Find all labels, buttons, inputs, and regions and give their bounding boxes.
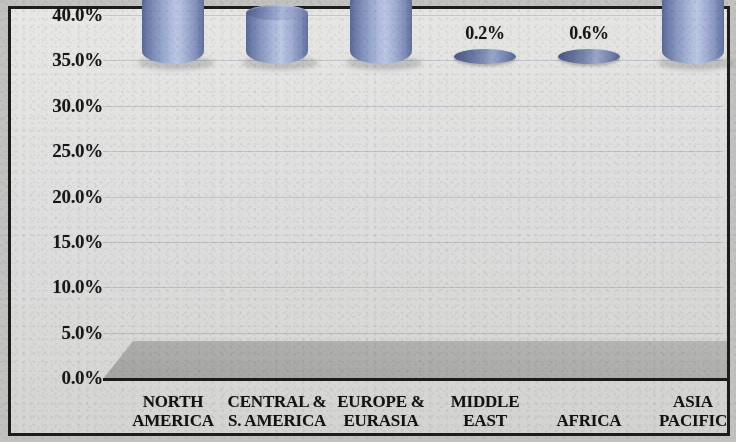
category-label-line: CENTRAL & — [221, 392, 333, 412]
y-axis-tick-label: 10.0% — [17, 276, 103, 298]
x-axis-category-labels: NORTHAMERICACENTRAL &S. AMERICAEUROPE &E… — [103, 381, 727, 433]
y-axis-tick-label: 20.0% — [17, 186, 103, 208]
bar-value-label: 0.2% — [465, 23, 504, 44]
category-label-6: ASIAPACIFIC — [637, 392, 736, 431]
category-label-line: AMERICA — [117, 411, 229, 431]
y-axis-tick-label: 5.0% — [17, 322, 103, 344]
category-label-line: AFRICA — [533, 411, 645, 431]
category-label-4: MIDDLEEAST — [429, 392, 541, 431]
category-label-2: CENTRAL &S. AMERICA — [221, 392, 333, 431]
bar-disc — [558, 49, 620, 64]
category-label-line: MIDDLE — [429, 392, 541, 412]
y-axis: 40.0%35.0%30.0%25.0%20.0%15.0%10.0%5.0%0… — [17, 9, 103, 378]
bar-cylinder-body — [142, 0, 204, 64]
category-label-line: EURASIA — [325, 411, 437, 431]
category-label-1: NORTHAMERICA — [117, 392, 229, 431]
y-axis-tick-label: 35.0% — [17, 49, 103, 71]
bar-1[interactable]: 23.4% — [121, 15, 225, 379]
bar-3[interactable]: 41.3% — [329, 15, 433, 379]
bar-cylinder — [662, 0, 724, 64]
bar-cylinder — [142, 0, 204, 64]
y-axis-tick-label: 30.0% — [17, 95, 103, 117]
bars-area: 23.4%6.5%41.3%0.2%0.6%28.0% — [103, 15, 727, 379]
bar-2[interactable]: 6.5% — [225, 15, 329, 379]
category-label-line: NORTH — [117, 392, 229, 412]
bar-6[interactable]: 28.0% — [641, 15, 736, 379]
category-label-line: S. AMERICA — [221, 411, 333, 431]
bar-cylinder-body — [662, 0, 724, 64]
axis-baseline — [103, 378, 727, 381]
category-label-line: EAST — [429, 411, 541, 431]
chart-root: 40.0%35.0%30.0%25.0%20.0%15.0%10.0%5.0%0… — [0, 0, 736, 442]
bar-4[interactable]: 0.2% — [433, 15, 537, 379]
category-label-3: EUROPE &EURASIA — [325, 392, 437, 431]
y-axis-tick-label: 0.0% — [17, 367, 103, 389]
bar-cylinder — [350, 0, 412, 64]
chart-frame: 40.0%35.0%30.0%25.0%20.0%15.0%10.0%5.0%0… — [8, 6, 730, 436]
bar-cylinder — [246, 5, 308, 64]
y-axis-tick-label: 25.0% — [17, 140, 103, 162]
bar-5[interactable]: 0.6% — [537, 15, 641, 379]
category-label-5: AFRICA — [533, 411, 645, 431]
bar-cylinder-body — [350, 0, 412, 64]
category-label-line: PACIFIC — [637, 411, 736, 431]
bar-disc — [454, 49, 516, 64]
bar-value-label: 0.6% — [569, 23, 608, 44]
category-label-line: EUROPE & — [325, 392, 437, 412]
bar-cylinder-top — [246, 5, 308, 20]
y-axis-tick-label: 15.0% — [17, 231, 103, 253]
y-axis-tick-label: 40.0% — [17, 4, 103, 26]
category-label-line: ASIA — [637, 392, 736, 412]
